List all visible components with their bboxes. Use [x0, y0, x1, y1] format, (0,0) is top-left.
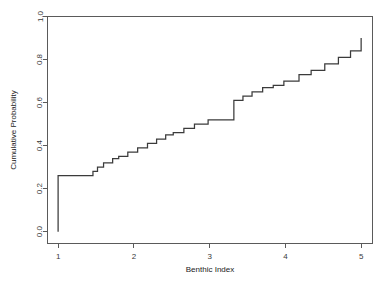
- x-axis-title: Benthic Index: [186, 265, 234, 274]
- ecdf-plot: 12345 0.00.20.40.60.81.0 Benthic Index C…: [0, 0, 384, 283]
- chart-figure: 12345 0.00.20.40.60.81.0 Benthic Index C…: [0, 0, 384, 283]
- x-tick-label: 2: [132, 252, 137, 261]
- y-tick-label: 0.2: [36, 183, 45, 195]
- y-tick-label: 0.4: [36, 139, 45, 151]
- y-tick-label: 0.6: [36, 96, 45, 108]
- x-tick-label: 3: [207, 252, 212, 261]
- plot-frame: [48, 17, 373, 244]
- ecdf-step-line: [58, 38, 361, 232]
- y-tick-label: 0.8: [36, 53, 45, 65]
- y-axis-title: Cumulative Probability: [9, 90, 18, 170]
- y-tick-label: 0.0: [36, 226, 45, 238]
- x-tick-label: 1: [56, 252, 61, 261]
- x-axis-ticks: 12345: [56, 244, 364, 261]
- y-axis-ticks: 0.00.20.40.60.81.0: [36, 10, 48, 237]
- y-tick-label: 1.0: [36, 10, 45, 22]
- x-tick-label: 5: [359, 252, 364, 261]
- x-tick-label: 4: [283, 252, 288, 261]
